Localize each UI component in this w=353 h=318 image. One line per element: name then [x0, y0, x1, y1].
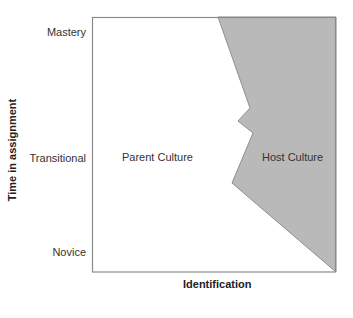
host-culture-region — [218, 17, 336, 272]
host-culture-label: Host Culture — [262, 151, 323, 164]
y-tick-novice: Novice — [6, 246, 86, 259]
x-axis-title: Identification — [183, 278, 251, 291]
y-axis-title: Time in assignment — [6, 99, 19, 202]
parent-culture-label: Parent Culture — [122, 151, 193, 164]
y-tick-mastery: Mastery — [6, 26, 86, 39]
